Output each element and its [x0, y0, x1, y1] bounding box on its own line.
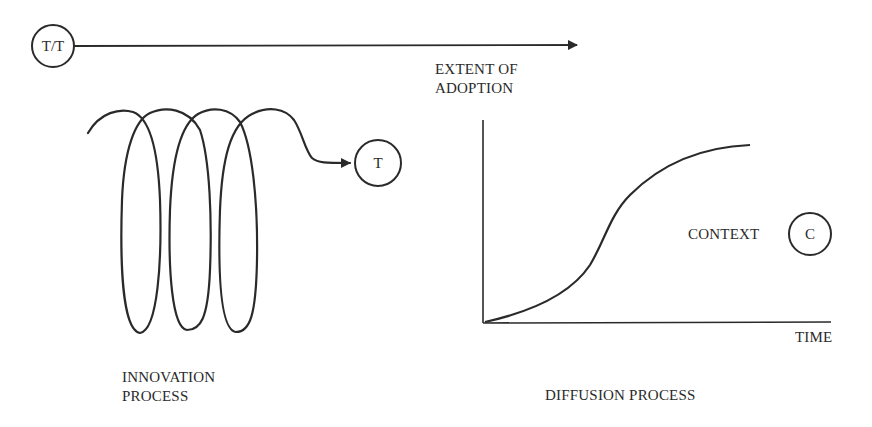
- context-label: CONTEXT: [688, 225, 759, 244]
- diffusion-process-label: DIFFUSION PROCESS: [545, 386, 696, 405]
- extent-of-adoption-line1: EXTENT OF: [435, 60, 518, 79]
- t-node-label: T: [373, 155, 382, 171]
- tt-node-label: T/T: [42, 38, 65, 54]
- c-node-label: C: [805, 226, 815, 242]
- innovation-process-label: INNOVATION PROCESS: [122, 368, 215, 406]
- innovation-process-line1: INNOVATION: [122, 368, 215, 387]
- t-node: T: [355, 140, 401, 186]
- time-label: TIME: [795, 328, 832, 347]
- c-node: C: [789, 213, 831, 255]
- innovation-spiral: [88, 109, 350, 333]
- timeline-arrow: [74, 45, 577, 46]
- extent-of-adoption-label: EXTENT OF ADOPTION: [435, 60, 518, 98]
- tt-node: T/T: [32, 25, 74, 67]
- extent-of-adoption-line2: ADOPTION: [435, 79, 518, 98]
- x-axis: [483, 322, 831, 323]
- innovation-process-line2: PROCESS: [122, 387, 215, 406]
